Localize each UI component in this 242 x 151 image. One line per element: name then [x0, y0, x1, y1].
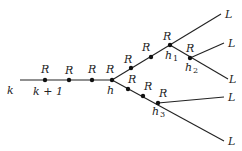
edge-label-r: R [64, 64, 73, 77]
node [129, 66, 133, 70]
node-label-h2: h2 [185, 61, 198, 75]
node-h2 [188, 56, 192, 60]
start-label-k: k [7, 84, 14, 97]
node [67, 78, 71, 82]
node-label-h: h [107, 84, 114, 97]
edge-h1-h2 [170, 45, 228, 79]
edge-h3-leaf [158, 97, 224, 103]
leaf-label: L [224, 8, 232, 21]
tree-diagram: R R R R R R R R R R R k k + 1 h h1 h2 h3… [0, 0, 242, 151]
edge-label-r: R [123, 53, 132, 66]
edge-label-r: R [40, 63, 49, 76]
node-k-plus-1 [43, 78, 47, 82]
edge-label-r: R [185, 42, 194, 55]
node-label-h1: h1 [165, 49, 178, 63]
node [126, 87, 130, 91]
node-h1 [168, 43, 172, 47]
node [90, 78, 94, 82]
edge-label-r: R [158, 87, 167, 100]
node [149, 55, 153, 59]
leaf-label: L [228, 73, 236, 86]
edge-upper-branch [112, 14, 221, 80]
node-label-k-plus-1: k + 1 [33, 85, 63, 98]
node [141, 94, 145, 98]
edge-label-r: R [143, 80, 152, 93]
edge-label-r: R [127, 73, 136, 86]
edge-label-r: R [87, 63, 96, 76]
edge-label-r: R [141, 41, 150, 54]
edge-label-r: R [105, 63, 114, 76]
edge-label-r: R [162, 30, 171, 43]
leaf-label: L [227, 91, 235, 104]
node-label-h3: h3 [152, 105, 165, 119]
leaf-label: L [227, 37, 235, 50]
edge-h2-leaf [190, 43, 224, 58]
node-h [110, 78, 114, 82]
leaf-label: L [227, 135, 235, 148]
